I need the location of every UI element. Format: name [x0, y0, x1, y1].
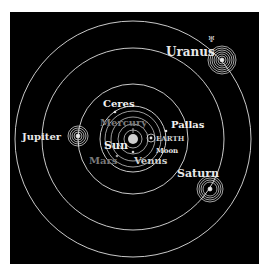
label-uranus: Uranus: [166, 45, 215, 59]
label-sun: Sun: [104, 139, 128, 152]
sun-disc: [128, 134, 138, 144]
label-mars: Mars: [89, 155, 118, 166]
solar-system-diagram: Uranus ♅ Ceres Pallas Mercury Jupiter Su…: [0, 0, 265, 271]
earth-dot: [150, 137, 153, 140]
label-moon: Moon: [156, 146, 178, 155]
label-earth: EARTH: [156, 134, 185, 143]
label-jupiter: Jupiter: [21, 131, 62, 142]
pallas-dot: [165, 130, 168, 133]
label-mercury: Mercury: [100, 117, 148, 128]
venus-dot: [132, 151, 135, 154]
symbol-uranus: ♅: [208, 34, 215, 44]
label-venus: Venus: [133, 155, 168, 166]
label-pallas: Pallas: [171, 119, 205, 130]
label-saturn: Saturn: [177, 167, 219, 180]
ceres-dot: [114, 111, 117, 114]
label-ceres: Ceres: [103, 98, 135, 109]
